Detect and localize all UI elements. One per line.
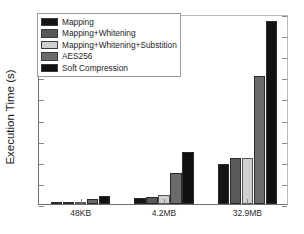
y-tick: [39, 206, 44, 207]
y-tick-right: [282, 185, 287, 186]
bar: [63, 202, 74, 204]
bar: [254, 76, 265, 204]
x-tick: [81, 199, 82, 204]
legend-item: Mapping+Whitening: [41, 28, 178, 40]
legend-swatch-icon: [41, 41, 58, 50]
bar: [134, 198, 145, 204]
bar: [242, 158, 253, 204]
legend-label: Mapping: [62, 18, 94, 26]
bar: [182, 152, 193, 204]
y-tick: [39, 185, 44, 186]
legend-swatch-icon: [41, 64, 58, 73]
y-tick: [39, 100, 44, 101]
y-tick-right: [282, 143, 287, 144]
x-tick-label: 4.2MB: [152, 208, 177, 218]
x-tick: [164, 199, 165, 204]
y-tick: [39, 164, 44, 165]
legend-label: Soft Compression: [62, 64, 128, 72]
y-axis-title-wrap: Execution Time (s): [12, 0, 13, 234]
y-axis-title: Execution Time (s): [4, 69, 16, 164]
bar: [51, 202, 62, 204]
legend-swatch-icon: [41, 29, 58, 38]
bar: [218, 164, 229, 204]
legend: MappingMapping+WhiteningMapping+Whitenin…: [37, 13, 181, 77]
legend-swatch-icon: [41, 18, 58, 27]
legend-item: Mapping: [41, 16, 178, 28]
legend-label: Mapping+Whitening+Substition: [62, 41, 177, 49]
bar: [99, 196, 110, 204]
y-tick-right: [282, 122, 287, 123]
y-tick: [39, 143, 44, 144]
bar: [87, 199, 98, 204]
y-tick-right: [282, 100, 287, 101]
x-tick: [247, 199, 248, 204]
x-tick-label: 48KB: [70, 208, 91, 218]
y-tick-right: [282, 58, 287, 59]
y-tick-right: [282, 206, 287, 207]
y-tick-right: [282, 79, 287, 80]
figure: Execution Time (s) 0123456789 48KB4.2MB3…: [0, 0, 304, 234]
y-tick: [39, 122, 44, 123]
legend-label: Mapping+Whitening: [62, 29, 136, 37]
y-tick-right: [282, 164, 287, 165]
legend-label: AES256: [62, 52, 92, 60]
bar: [266, 21, 277, 204]
legend-item: Soft Compression: [41, 62, 178, 74]
bar: [230, 158, 241, 204]
y-tick: [39, 79, 44, 80]
legend-item: Mapping+Whitening+Substition: [41, 39, 178, 51]
bar: [146, 197, 157, 204]
y-tick-right: [282, 37, 287, 38]
legend-swatch-icon: [41, 52, 58, 61]
bar: [170, 173, 181, 204]
y-tick-right: [282, 16, 287, 17]
legend-item: AES256: [41, 51, 178, 63]
x-tick-label: 32.9MB: [233, 208, 262, 218]
